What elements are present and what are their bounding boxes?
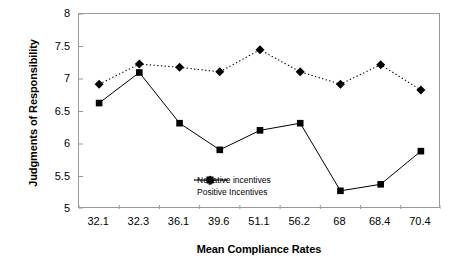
plot-area: Negative incentives Positive Incentives — [78, 13, 440, 208]
x-tick-label: 39.6 — [199, 214, 239, 230]
y-tick-label: 8 — [36, 8, 70, 19]
data-point — [418, 148, 425, 155]
x-axis-title: Mean Compliance Rates — [78, 243, 440, 255]
legend-key-diamond-dotted — [193, 174, 229, 186]
data-point — [215, 67, 224, 76]
data-point — [296, 67, 305, 76]
data-point — [95, 80, 104, 89]
data-point — [336, 80, 345, 89]
chart-figure: Judgments of Responsibility 8 7.5 7 6.5 … — [0, 0, 456, 270]
data-point — [136, 69, 143, 76]
chart-legend: Negative incentives Positive Incentives — [193, 174, 271, 198]
data-point — [376, 60, 385, 69]
data-point — [337, 188, 344, 195]
series-positive — [95, 45, 426, 94]
data-point — [175, 63, 184, 72]
y-axis-ticks — [79, 14, 83, 209]
data-point — [256, 45, 265, 54]
y-tick-label: 7 — [36, 73, 70, 84]
data-point — [216, 147, 223, 154]
data-point — [96, 100, 103, 107]
y-tick-label: 7.5 — [36, 41, 70, 52]
data-point — [135, 60, 144, 69]
x-axis-tick-labels: 32.1 32.3 36.1 39.6 51.1 56.2 68 68.4 70… — [78, 214, 440, 230]
x-tick-label: 51.1 — [239, 214, 279, 230]
y-tick-label: 5.5 — [36, 171, 70, 182]
x-tick-label: 56.2 — [279, 214, 319, 230]
y-tick-label: 5 — [36, 203, 70, 214]
data-point — [257, 127, 264, 134]
data-point — [297, 120, 304, 127]
x-axis-ticks — [79, 205, 441, 209]
x-tick-label: 32.3 — [118, 214, 158, 230]
data-point — [377, 181, 384, 188]
y-tick-label: 6 — [36, 138, 70, 149]
x-tick-label: 36.1 — [158, 214, 198, 230]
data-point — [416, 86, 425, 95]
legend-label-positive: Positive Incentives — [193, 187, 267, 198]
series-layer — [95, 45, 426, 194]
legend-item-positive: Positive Incentives — [193, 186, 271, 198]
x-tick-label: 68 — [319, 214, 359, 230]
y-tick-label: 6.5 — [36, 106, 70, 117]
x-tick-label: 68.4 — [360, 214, 400, 230]
x-tick-label: 70.4 — [400, 214, 440, 230]
data-point — [176, 120, 183, 127]
x-tick-label: 32.1 — [78, 214, 118, 230]
